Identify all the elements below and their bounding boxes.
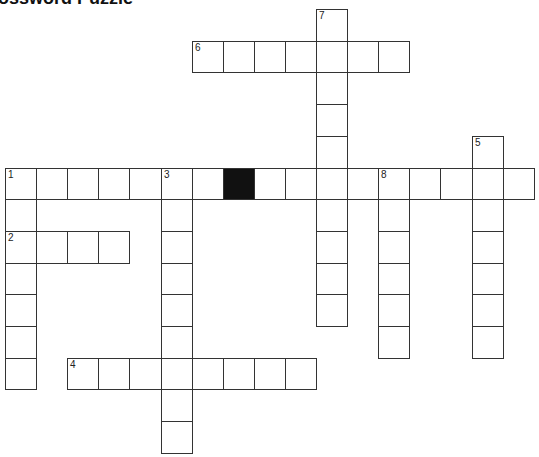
crossword-cell[interactable] <box>316 294 348 327</box>
crossword-cell[interactable] <box>161 389 193 422</box>
crossword-cell[interactable] <box>161 358 193 390</box>
crossword-cell[interactable] <box>378 326 410 359</box>
crossword-cell[interactable] <box>129 168 162 200</box>
crossword-cell[interactable] <box>285 168 317 200</box>
crossword-cell[interactable] <box>378 199 410 232</box>
crossword-cell[interactable] <box>192 358 224 390</box>
crossword-cell[interactable] <box>129 358 162 390</box>
crossword-cell[interactable] <box>378 263 410 295</box>
crossword-cell[interactable]: 5 <box>472 136 504 169</box>
clue-number: 2 <box>8 233 14 243</box>
crossword-cell[interactable]: 8 <box>378 168 410 200</box>
crossword-cell[interactable] <box>316 136 348 169</box>
crossword-cell[interactable] <box>316 168 348 200</box>
clue-number: 7 <box>319 11 325 21</box>
crossword-cell[interactable] <box>5 326 37 359</box>
crossword-cell[interactable] <box>472 326 504 359</box>
crossword-cell[interactable] <box>98 231 130 264</box>
crossword-cell[interactable] <box>67 231 99 264</box>
crossword-cell[interactable] <box>98 358 130 390</box>
crossword-cell[interactable] <box>472 294 504 327</box>
crossword-cell[interactable] <box>192 168 224 200</box>
crossword-cell[interactable] <box>440 168 473 200</box>
clue-number: 1 <box>8 170 14 180</box>
crossword-cell[interactable] <box>98 168 130 200</box>
crossword-cell[interactable] <box>285 358 317 390</box>
crossword-cell[interactable] <box>161 263 193 295</box>
crossword-cell[interactable]: 2 <box>5 231 37 264</box>
crossword-cell[interactable] <box>316 41 348 73</box>
crossword-cell[interactable] <box>223 358 255 390</box>
crossword-cell[interactable] <box>5 263 37 295</box>
crossword-cell[interactable] <box>316 263 348 295</box>
crossword-cell[interactable] <box>161 231 193 264</box>
crossword-cell[interactable] <box>409 168 441 200</box>
clue-number: 8 <box>381 170 387 180</box>
crossword-cell[interactable] <box>378 41 410 73</box>
crossword-cell[interactable]: 6 <box>192 41 224 73</box>
crossword-cell[interactable]: 3 <box>161 168 193 200</box>
clue-number: 5 <box>475 138 481 148</box>
black-cell <box>223 168 255 200</box>
crossword-cell[interactable] <box>472 231 504 264</box>
crossword-cell[interactable] <box>316 231 348 264</box>
crossword-cell[interactable] <box>5 358 37 390</box>
crossword-cell[interactable] <box>254 168 286 200</box>
crossword-cell[interactable] <box>503 168 535 200</box>
crossword-cell[interactable] <box>254 358 286 390</box>
crossword-cell[interactable] <box>36 231 68 264</box>
crossword-cell[interactable] <box>316 104 348 137</box>
crossword-cell[interactable] <box>316 72 348 105</box>
crossword-cell[interactable] <box>347 168 379 200</box>
crossword-cell[interactable] <box>472 199 504 232</box>
crossword-cell[interactable] <box>347 41 379 73</box>
crossword-cell[interactable] <box>36 168 68 200</box>
crossword-cell[interactable] <box>472 168 504 200</box>
crossword-cell[interactable] <box>161 199 193 232</box>
crossword-cell[interactable]: 1 <box>5 168 37 200</box>
clue-number: 4 <box>70 360 76 370</box>
crossword-cell[interactable]: 7 <box>316 9 348 42</box>
crossword-cell[interactable]: 4 <box>67 358 99 390</box>
crossword-cell[interactable] <box>161 294 193 327</box>
clue-number: 6 <box>195 43 201 53</box>
crossword-cell[interactable] <box>316 199 348 232</box>
crossword-cell[interactable] <box>254 41 286 73</box>
crossword-cell[interactable] <box>378 231 410 264</box>
crossword-cell[interactable] <box>378 294 410 327</box>
crossword-cell[interactable] <box>161 421 193 454</box>
crossword-cell[interactable] <box>223 41 255 73</box>
crossword-cell[interactable] <box>67 168 99 200</box>
puzzle-title: Crossword Puzzle <box>0 0 133 9</box>
crossword-cell[interactable] <box>472 263 504 295</box>
crossword-cell[interactable] <box>161 326 193 359</box>
clue-number: 3 <box>164 170 170 180</box>
crossword-cell[interactable] <box>285 41 317 73</box>
crossword-cell[interactable] <box>5 199 37 232</box>
crossword-cell[interactable] <box>5 294 37 327</box>
